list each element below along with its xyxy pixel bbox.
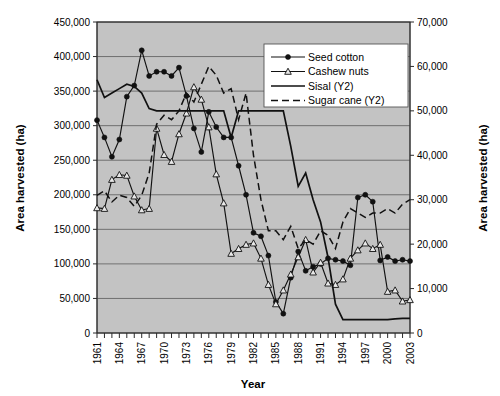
y-axis-left-tick-label: 100,000 (54, 258, 91, 269)
legend-item-label: Sisal (Y2) (308, 80, 354, 92)
legend-swatch-marker (286, 55, 291, 60)
data-point-marker (199, 149, 204, 154)
data-point-marker (236, 163, 241, 168)
data-point-marker (266, 253, 271, 258)
y-axis-right-tick-label: 20,000 (417, 239, 448, 250)
data-point-marker (370, 199, 375, 204)
legend-item-label: Sugar cane (Y2) (308, 94, 384, 106)
chart-figure: 050,000100,000150,000200,000250,000300,0… (0, 0, 500, 396)
data-point-marker (333, 257, 338, 262)
x-axis-tick-label: 1982 (248, 342, 259, 365)
y-axis-left-tick-label: 250,000 (54, 155, 91, 166)
data-point-marker (169, 73, 174, 78)
x-axis-tick-label: 1979 (226, 342, 237, 365)
y-axis-right-title: Area harvested (ha) (477, 124, 489, 232)
data-point-marker (109, 154, 114, 159)
y-axis-right-tick-label: 30,000 (417, 194, 448, 205)
y-axis-right-tick-label: 50,000 (417, 105, 448, 116)
chart-legend: Seed cottonCashew nutsSisal (Y2)Sugar ca… (264, 44, 408, 107)
data-point-marker (393, 259, 398, 264)
data-point-marker (340, 259, 345, 264)
data-point-marker (355, 195, 360, 200)
y-axis-left-tick-label: 450,000 (54, 17, 91, 28)
x-axis-tick-label: 1988 (293, 342, 304, 365)
y-axis-left-tick-label: 50,000 (59, 293, 90, 304)
data-point-marker (95, 118, 100, 123)
data-point-marker (303, 268, 308, 273)
data-point-marker (251, 230, 256, 235)
data-point-marker (147, 73, 152, 78)
y-axis-left-tick-label: 0 (84, 328, 90, 339)
data-point-marker (400, 257, 405, 262)
legend-item-label: Seed cotton (308, 51, 364, 63)
x-axis-tick-label: 1994 (337, 342, 348, 365)
x-axis-tick-label: 2003 (405, 342, 416, 365)
line-chart: 050,000100,000150,000200,000250,000300,0… (0, 0, 500, 396)
data-point-marker (176, 65, 181, 70)
legend-item-label: Cashew nuts (308, 65, 369, 77)
x-axis-tick-label: 1964 (114, 342, 125, 365)
y-axis-left-title: Area harvested (ha) (14, 124, 26, 232)
data-point-marker (139, 48, 144, 53)
y-axis-right-tick-label: 60,000 (417, 61, 448, 72)
y-axis-right-tick-label: 40,000 (417, 150, 448, 161)
x-axis-tick-label: 1961 (92, 342, 103, 365)
data-point-marker (191, 126, 196, 131)
y-axis-left-tick-label: 350,000 (54, 86, 91, 97)
x-axis-tick-label: 1973 (181, 342, 192, 365)
x-axis-tick-label: 1976 (203, 342, 214, 365)
data-point-marker (102, 135, 107, 140)
data-point-marker (214, 125, 219, 130)
x-axis-tick-label: 1985 (270, 342, 281, 365)
y-axis-right-tick-label: 10,000 (417, 283, 448, 294)
data-point-marker (162, 69, 167, 74)
x-axis-tick-label: 1997 (360, 342, 371, 365)
x-axis-tick-label: 1967 (136, 342, 147, 365)
data-point-marker (221, 135, 226, 140)
data-point-marker (154, 69, 159, 74)
y-axis-left-tick-label: 200,000 (54, 189, 91, 200)
y-axis-left-tick-label: 400,000 (54, 51, 91, 62)
data-point-marker (281, 311, 286, 316)
data-point-marker (408, 259, 413, 264)
data-point-marker (363, 192, 368, 197)
y-axis-left-tick-label: 150,000 (54, 224, 91, 235)
data-point-marker (124, 94, 129, 99)
x-axis-title: Year (241, 378, 266, 390)
x-axis-tick-label: 2000 (382, 342, 393, 365)
x-axis-tick-label: 1991 (315, 342, 326, 365)
x-axis-tick-label: 1970 (159, 342, 170, 365)
data-point-marker (244, 192, 249, 197)
data-point-marker (117, 137, 122, 142)
data-point-marker (385, 254, 390, 259)
data-point-marker (258, 234, 263, 239)
y-axis-left-tick-label: 300,000 (54, 120, 91, 131)
y-axis-right-tick-label: 0 (417, 328, 423, 339)
y-axis-right-tick-label: 70,000 (417, 17, 448, 28)
